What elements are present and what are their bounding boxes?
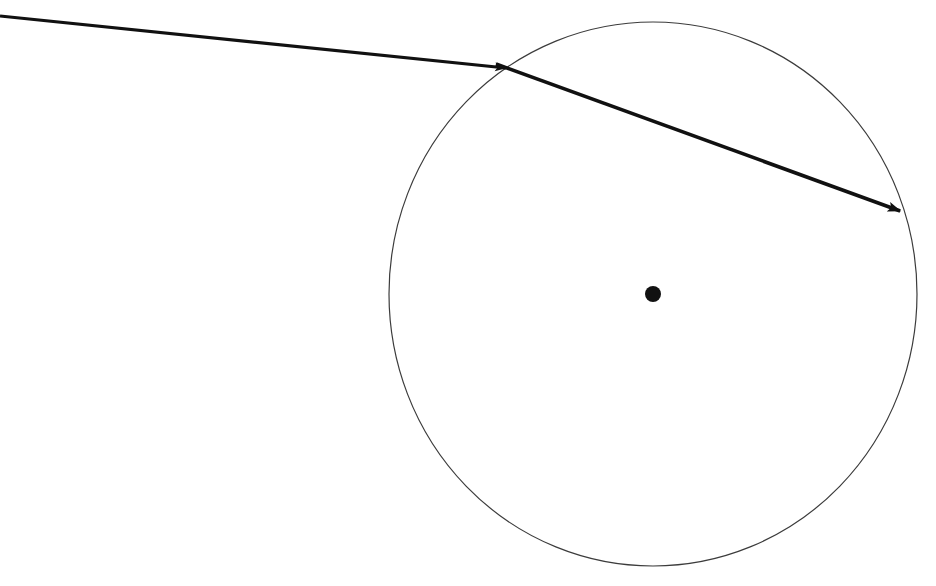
incoming-ray-arrow (0, 16, 506, 68)
geometry-diagram-svg (0, 0, 936, 586)
chord-ray-arrow (496, 64, 900, 211)
figure-canvas (0, 0, 936, 586)
center-point-dot (645, 286, 661, 302)
